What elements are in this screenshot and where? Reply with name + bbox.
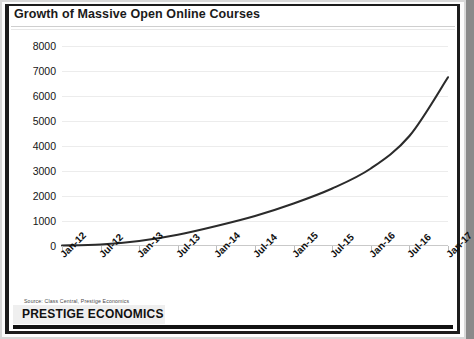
y-axis-tick-label: 6000 — [0, 90, 56, 102]
y-axis-tick-label: 5000 — [0, 115, 56, 127]
title-divider-secondary — [11, 29, 455, 30]
brand-wordmark: PRESTIGE ECONOMICS — [22, 307, 164, 321]
source-note: Source: Class Central, Prestige Economic… — [24, 298, 129, 304]
y-axis-tick-label: 7000 — [0, 65, 56, 77]
footer-rule — [13, 325, 453, 329]
plot-area — [62, 46, 448, 246]
y-axis-tick-label: 8000 — [0, 40, 56, 52]
y-axis-labels: 010002000300040005000600070008000 — [0, 46, 56, 246]
title-divider — [11, 26, 455, 27]
y-axis-tick-label: 1000 — [0, 215, 56, 227]
series-path — [62, 77, 448, 245]
y-axis-tick-label: 2000 — [0, 190, 56, 202]
series-line-moocs — [62, 46, 448, 246]
y-axis-tick-label: 3000 — [0, 165, 56, 177]
x-axis-labels: Jan-12Jul-12Jan-13Jul-13Jan-14Jul-14Jan-… — [0, 250, 466, 298]
y-axis-tick-label: 4000 — [0, 140, 56, 152]
page-title: Growth of Massive Open Online Courses — [14, 7, 260, 21]
